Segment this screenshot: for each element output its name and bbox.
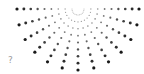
burst-dot [22, 8, 25, 11]
burst-dot [76, 68, 79, 71]
burst-dot [112, 28, 114, 30]
burst-dot [91, 60, 94, 63]
burst-dot [101, 32, 103, 34]
burst-dot [123, 35, 126, 38]
burst-dot [106, 25, 108, 27]
burst-dot [91, 22, 93, 24]
burst-dot [81, 21, 82, 22]
burst-dot [105, 36, 107, 38]
burst-dot [75, 14, 76, 15]
burst-dot [36, 31, 39, 34]
burst-dot [97, 8, 99, 10]
burst-dot [31, 20, 34, 23]
burst-dot [117, 8, 119, 10]
burst-dot [109, 17, 111, 19]
burst-dot [129, 22, 132, 25]
help-icon[interactable]: ? [8, 56, 13, 65]
burst-dot [71, 20, 72, 21]
burst-dot [86, 17, 87, 18]
burst-dot [57, 43, 59, 45]
burst-dot [103, 15, 105, 17]
burst-dot [89, 15, 90, 16]
burst-dot [110, 41, 113, 44]
burst-dot [90, 12, 91, 13]
burst-dot [66, 15, 67, 16]
burst-dot [74, 21, 75, 22]
burst-dot [76, 14, 77, 15]
burst-dot [84, 9, 85, 10]
burst-dot [89, 53, 92, 56]
burst-dot [64, 8, 65, 9]
burst-dot [72, 12, 73, 13]
burst-dot [131, 8, 134, 11]
burst-dot [24, 22, 27, 25]
burst-dot [33, 51, 36, 54]
burst-dot [36, 8, 38, 10]
burst-dot [129, 38, 132, 41]
burst-dot [38, 18, 40, 20]
burst-dot [30, 35, 33, 38]
burst-dot [24, 38, 27, 41]
burst-dot [110, 8, 112, 10]
burst-dot [48, 25, 50, 27]
burst-dot [118, 31, 121, 34]
burst-dot [73, 13, 74, 14]
burst-dot [100, 49, 103, 52]
burst-dot [53, 49, 56, 52]
burst-dot [87, 47, 89, 49]
burst-dot [67, 25, 69, 27]
burst-dot [77, 41, 79, 43]
burst-dot [82, 13, 83, 14]
burst-dot [77, 48, 79, 50]
burst-dot [45, 17, 47, 19]
burst-dot [97, 43, 99, 45]
burst-dot [60, 18, 62, 20]
burst-dot [63, 22, 65, 24]
burst-dot [83, 10, 84, 11]
burst-dot [43, 41, 46, 44]
burst-dot [86, 40, 88, 42]
burst-dot [83, 12, 84, 13]
burst-dot [29, 8, 32, 11]
burst-dot [77, 35, 79, 37]
burst-dot [104, 54, 107, 57]
burst-dot [77, 28, 79, 30]
burst-dot [54, 21, 56, 23]
burst-dot [135, 23, 138, 26]
burst-dot [116, 18, 118, 20]
burst-dot [66, 47, 68, 49]
burst-dot [81, 14, 82, 15]
burst-dot [43, 8, 45, 10]
burst-dot [115, 46, 118, 49]
burst-dot [82, 27, 84, 29]
burst-dot [64, 53, 67, 56]
burst-dot [96, 27, 98, 29]
burst-dot [104, 8, 106, 10]
burst-dot [77, 55, 80, 58]
burst-dot [84, 34, 86, 36]
burst-dot [49, 54, 52, 57]
burst-dot [57, 8, 59, 10]
burst-dot [92, 66, 95, 69]
burst-dot [72, 27, 74, 29]
burst-dot [78, 15, 79, 16]
burst-dot [58, 13, 60, 15]
burst-dot [107, 60, 110, 63]
burst-dot [50, 8, 52, 10]
burst-dot [53, 32, 55, 34]
radial-dot-burst-graphic [0, 0, 144, 74]
burst-dot [58, 27, 60, 29]
burst-dot [90, 31, 92, 33]
burst-dot [100, 21, 102, 23]
burst-dot [48, 36, 50, 38]
burst-dot [124, 8, 127, 11]
burst-dot [137, 7, 140, 10]
burst-dot [79, 14, 80, 15]
burst-dot [68, 40, 70, 42]
burst-dot [120, 51, 123, 54]
burst-dot [77, 62, 80, 65]
burst-dot [72, 9, 73, 10]
burst-dot [77, 21, 78, 22]
burst-dot [94, 37, 96, 39]
burst-dot [61, 66, 64, 69]
